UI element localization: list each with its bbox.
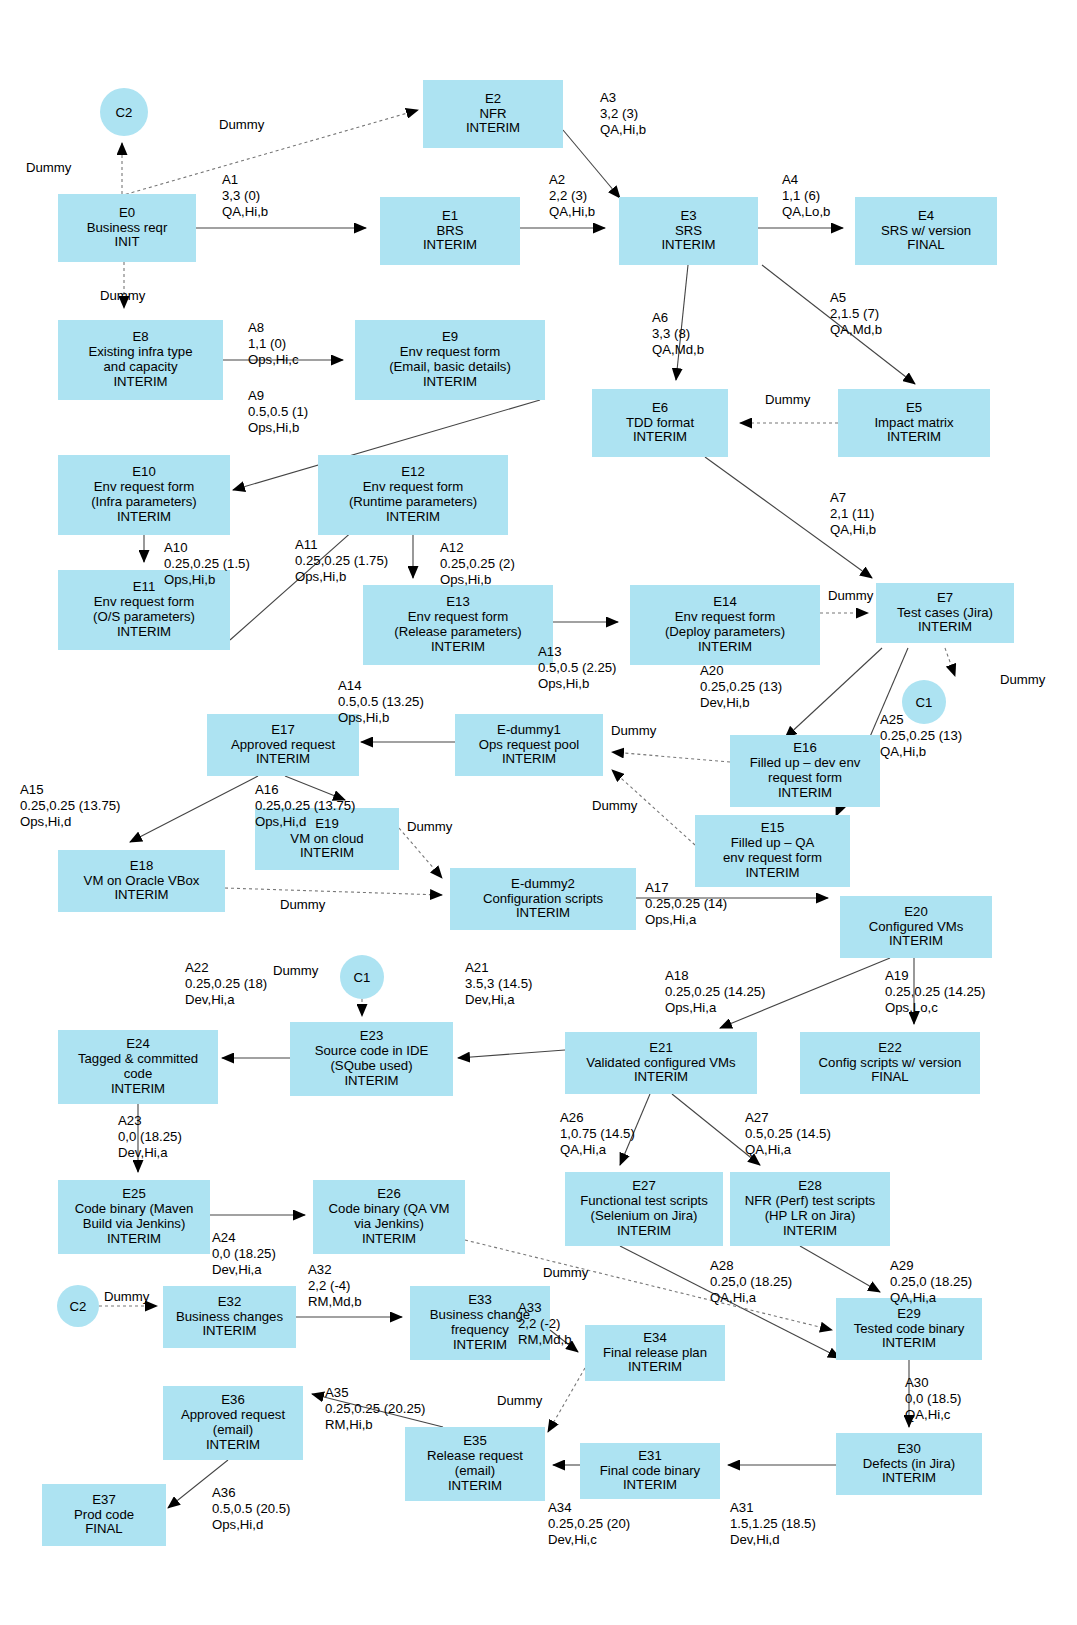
node-line: E30 [897, 1442, 920, 1457]
activity-label-line: 0.25,0.25 (13) [700, 679, 782, 695]
node-e20[interactable]: E20Configured VMsINTERIM [840, 896, 992, 958]
node-line: (email) [455, 1464, 495, 1479]
node-e32[interactable]: E32Business changesINTERIM [163, 1286, 296, 1348]
node-e16[interactable]: E16Filled up – dev envrequest formINTERI… [730, 735, 880, 807]
node-line: E9 [442, 330, 458, 345]
node-e5[interactable]: E5Impact matrixINTERIM [838, 389, 990, 457]
node-e6[interactable]: E6TDD formatINTERIM [592, 389, 728, 457]
node-line: TDD format [626, 416, 694, 431]
node-e17[interactable]: E17Approved requestINTERIM [207, 714, 359, 776]
activity-label-line: 0,0 (18.5) [905, 1391, 961, 1407]
activity-label-line: Ops,Lo,c [885, 1000, 985, 1016]
node-e25[interactable]: E25Code binary (MavenBuild via Jenkins)I… [58, 1180, 210, 1254]
node-e4[interactable]: E4SRS w/ versionFINAL [855, 197, 997, 265]
activity-label-line: 0,0 (18.25) [212, 1246, 276, 1262]
node-line: env request form [723, 851, 822, 866]
node-line: E2 [485, 92, 501, 107]
node-line: Env request form [94, 480, 194, 495]
dummy-edge-label: Dummy [828, 588, 873, 603]
node-line: Business changes [176, 1310, 283, 1325]
activity-label-line: A19 [885, 968, 985, 984]
node-e0[interactable]: E0Business reqrINIT [58, 194, 196, 262]
node-line: code [124, 1067, 153, 1082]
activity-label-a15: A150.25,0.25 (13.75)Ops,Hi,d [20, 782, 120, 830]
activity-label-a27: A270.5,0.25 (14.5)QA,Hi,a [745, 1110, 831, 1158]
node-e26[interactable]: E26Code binary (QA VMvia Jenkins)INTERIM [313, 1180, 465, 1254]
activity-label-line: 0.25,0.25 (14.25) [885, 984, 985, 1000]
node-e29[interactable]: E29Tested code binaryINTERIM [836, 1298, 982, 1360]
node-e28[interactable]: E28NFR (Perf) test scripts(HP LR on Jira… [730, 1172, 890, 1246]
node-line: C1 [916, 695, 933, 710]
activity-label-a36: A360.5,0.5 (20.5)Ops,Hi,d [212, 1485, 290, 1533]
activity-label-line: Ops,Hi,b [538, 676, 616, 692]
node-e30[interactable]: E30Defects (in Jira)INTERIM [836, 1433, 982, 1495]
node-e34[interactable]: E34Final release planINTERIM [585, 1325, 725, 1381]
node-line: Business change [430, 1308, 530, 1323]
node-e3[interactable]: E3SRSINTERIM [619, 197, 758, 265]
node-e35[interactable]: E35Release request(email)INTERIM [405, 1427, 545, 1501]
node-line: E8 [132, 330, 148, 345]
node-e27[interactable]: E27Functional test scripts(Selenium on J… [565, 1172, 723, 1246]
node-e7[interactable]: E7Test cases (Jira)INTERIM [876, 583, 1014, 643]
node-e9[interactable]: E9Env request form(Email, basic details)… [355, 320, 545, 400]
node-line: INTERIM [206, 1438, 260, 1453]
node-line: Configured VMs [869, 920, 964, 935]
node-line: Ops request pool [479, 738, 579, 753]
node-e2[interactable]: E2NFRINTERIM [423, 80, 563, 148]
activity-label-line: A23 [118, 1113, 182, 1129]
node-c2b[interactable]: C2 [57, 1285, 99, 1327]
node-e10[interactable]: E10Env request form(Infra parameters)INT… [58, 455, 230, 535]
node-e18[interactable]: E18VM on Oracle VBoxINTERIM [58, 850, 225, 912]
node-line: E-dummy2 [511, 877, 575, 892]
node-line: E35 [463, 1434, 486, 1449]
node-line: INTERIM [386, 510, 440, 525]
node-e21[interactable]: E21Validated configured VMsINTERIM [565, 1032, 757, 1094]
node-e36[interactable]: E36Approved request(email)INTERIM [163, 1386, 303, 1460]
node-line: VM on cloud [290, 832, 363, 847]
node-c2a[interactable]: C2 [100, 88, 148, 136]
node-line: INTERIM [423, 375, 477, 390]
node-e22[interactable]: E22Config scripts w/ versionFINAL [800, 1032, 980, 1094]
node-e15[interactable]: E15Filled up – QAenv request formINTERIM [695, 815, 850, 887]
node-line: E31 [638, 1449, 661, 1464]
dummy-edge-label: Dummy [280, 897, 325, 912]
activity-label-line: Ops,Hi,d [212, 1517, 290, 1533]
node-e13[interactable]: E13Env request form(Release parameters)I… [363, 585, 553, 665]
node-line: Prod code [74, 1508, 134, 1523]
node-e23[interactable]: E23Source code in IDE(SQube used)INTERIM [290, 1022, 453, 1096]
node-line: E11 [133, 580, 156, 595]
activity-label-line: 0.25,0.25 (14) [645, 896, 727, 912]
activity-label-a2: A22,2 (3)QA,Hi,b [549, 172, 595, 220]
node-e14[interactable]: E14Env request form(Deploy parameters)IN… [630, 585, 820, 665]
node-line: SRS w/ version [881, 224, 971, 239]
node-line: (Infra parameters) [91, 495, 197, 510]
activity-label-line: 0.5,0.5 (2.25) [538, 660, 616, 676]
node-edummy1[interactable]: E-dummy1Ops request poolINTERIM [455, 714, 603, 776]
node-e1[interactable]: E1BRSINTERIM [380, 197, 520, 265]
activity-label-a19: A190.25,0.25 (14.25)Ops,Lo,c [885, 968, 985, 1016]
node-line: E21 [649, 1041, 672, 1056]
node-line: Tagged & committed [78, 1052, 198, 1067]
node-e8[interactable]: E8Existing infra typeand capacityINTERIM [58, 320, 223, 400]
node-line: INTERIM [466, 121, 520, 136]
activity-label-line: A34 [548, 1500, 630, 1516]
activity-label-line: QA,Hi,b [549, 204, 595, 220]
activity-label-line: A29 [890, 1258, 972, 1274]
node-e37[interactable]: E37Prod codeFINAL [42, 1484, 166, 1546]
node-e31[interactable]: E31Final code binaryINTERIM [580, 1443, 720, 1499]
node-e24[interactable]: E24Tagged & committedcodeINTERIM [58, 1030, 218, 1104]
node-edummy2[interactable]: E-dummy2Configuration scriptsINTERIM [450, 868, 636, 930]
node-line: E29 [897, 1307, 920, 1322]
node-e12[interactable]: E12Env request form(Runtime parameters)I… [318, 455, 508, 535]
node-c1b[interactable]: C1 [340, 955, 384, 999]
activity-label-line: QA,Hi,a [890, 1290, 972, 1306]
activity-label-line: 0.25,0.25 (20.25) [325, 1401, 425, 1417]
node-line: Env request form [363, 480, 463, 495]
activity-label-line: Dev,Hi,b [700, 695, 782, 711]
activity-label-line: QA,Hi,b [830, 522, 876, 538]
activity-label-line: A31 [730, 1500, 816, 1516]
activity-label-line: A32 [308, 1262, 362, 1278]
activity-label-line: A11 [295, 537, 388, 553]
activity-label-line: Ops,Hi,d [255, 814, 355, 830]
activity-label-line: Ops,Hi,d [20, 814, 120, 830]
